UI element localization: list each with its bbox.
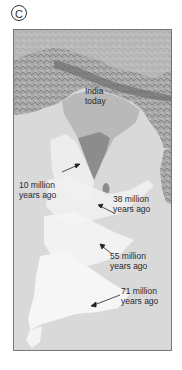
label-71-million-years-ago: 71 millionyears ago [121, 287, 158, 306]
label-38-million-years-ago: 38 millionyears ago [113, 195, 150, 214]
label-55-million-years-ago: 55 millionyears ago [110, 252, 147, 271]
label-india-today: Indiatoday [85, 87, 106, 106]
map-frame: Indiatoday 10 millionyears ago 38 millio… [13, 29, 172, 351]
panel-label-c: C [11, 5, 27, 21]
label-10-million-years-ago: 10 millionyears ago [19, 181, 56, 200]
